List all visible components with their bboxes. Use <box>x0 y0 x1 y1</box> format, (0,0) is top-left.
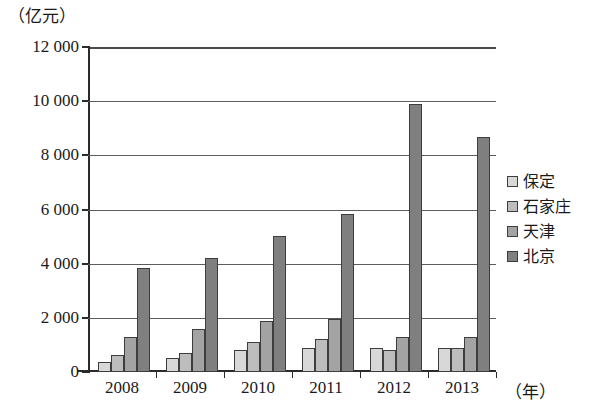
y-tick-label: 0 <box>71 362 80 382</box>
bar <box>273 236 286 372</box>
bar <box>302 348 315 372</box>
x-tick-mark <box>156 372 157 378</box>
x-tick-label: 2010 <box>241 378 275 398</box>
y-tick-label: 2 000 <box>41 308 79 328</box>
y-tick-label: 4 000 <box>41 254 79 274</box>
bars-layer <box>88 47 496 372</box>
y-tick-label: 12 000 <box>32 37 79 57</box>
x-tick-mark <box>496 372 497 378</box>
bar-group <box>428 47 496 372</box>
legend-item[interactable]: 石家庄 <box>507 194 571 219</box>
x-tick-mark <box>360 372 361 378</box>
y-tick-label: 10 000 <box>32 91 79 111</box>
legend-item[interactable]: 保定 <box>507 169 571 194</box>
bar <box>315 339 328 372</box>
bar <box>260 321 273 372</box>
bar <box>451 348 464 372</box>
bar <box>383 350 396 372</box>
legend-swatch-icon <box>507 176 518 187</box>
bar <box>438 348 451 372</box>
bar <box>234 350 247 372</box>
x-tick-label: 2008 <box>105 378 139 398</box>
legend-swatch-icon <box>507 201 518 212</box>
legend-label: 石家庄 <box>523 199 571 215</box>
x-tick-mark <box>428 372 429 378</box>
bar <box>396 337 409 372</box>
bar <box>370 348 383 372</box>
legend-label: 保定 <box>523 174 555 190</box>
bar-group <box>292 47 360 372</box>
plot-area: 12 00010 0008 0006 0004 0002 0000 <box>88 47 496 372</box>
x-tick-label: 2009 <box>173 378 207 398</box>
bar <box>341 214 354 372</box>
bar <box>464 337 477 372</box>
chart-legend: 保定石家庄天津北京 <box>507 169 571 269</box>
bar <box>124 337 137 372</box>
bar-group <box>360 47 428 372</box>
y-axis-unit-label: （亿元） <box>8 2 76 27</box>
legend-swatch-icon <box>507 251 518 262</box>
bar <box>166 358 179 372</box>
bar-chart: （亿元） 12 00010 0008 0006 0004 0002 0000 2… <box>0 0 599 404</box>
bar <box>137 268 150 372</box>
x-tick-mark <box>292 372 293 378</box>
x-tick-mark <box>224 372 225 378</box>
legend-item[interactable]: 天津 <box>507 219 571 244</box>
bar <box>179 353 192 372</box>
bar <box>205 258 218 372</box>
bar <box>477 137 490 372</box>
legend-swatch-icon <box>507 226 518 237</box>
bar <box>111 355 124 372</box>
x-tick-label: 2011 <box>309 378 342 398</box>
bar <box>247 342 260 372</box>
x-tick-label: 2013 <box>445 378 479 398</box>
legend-item[interactable]: 北京 <box>507 244 571 269</box>
bar <box>98 362 111 372</box>
x-axis-unit-label: （年） <box>505 378 556 403</box>
legend-label: 天津 <box>523 224 555 240</box>
bar <box>409 104 422 372</box>
bar-group <box>224 47 292 372</box>
x-tick-label: 2012 <box>377 378 411 398</box>
y-tick-label: 8 000 <box>41 145 79 165</box>
bar <box>328 319 341 372</box>
bar <box>192 329 205 372</box>
bar-group <box>156 47 224 372</box>
legend-label: 北京 <box>523 249 555 265</box>
y-tick-label: 6 000 <box>41 200 79 220</box>
bar-group <box>88 47 156 372</box>
